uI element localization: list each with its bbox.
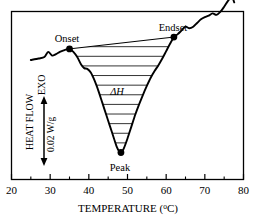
x-tick-label: 80 — [238, 184, 250, 196]
peak-marker-dot — [118, 149, 125, 156]
y-scale-bar-label: 0.02 W/g — [46, 117, 56, 152]
x-tick-label: 50 — [122, 184, 134, 196]
enthalpy-label: ΔH — [109, 86, 125, 97]
endset-marker-dot — [171, 34, 178, 41]
chart-canvas: 20304050607080 Onset Endset Peak ΔH TEMP… — [0, 0, 254, 219]
onset-marker-dot — [66, 46, 73, 53]
x-axis-title-tail: C) — [167, 202, 178, 215]
x-tick-label: 70 — [199, 184, 211, 196]
x-tick-label: 60 — [161, 184, 173, 196]
dsc-thermogram-figure: 20304050607080 Onset Endset Peak ΔH TEMP… — [0, 0, 254, 219]
endset-label: Endset — [159, 22, 188, 33]
onset-label: Onset — [55, 33, 80, 44]
peak-label: Peak — [110, 162, 131, 173]
exo-direction-label: EXO — [36, 74, 47, 95]
x-tick-label: 30 — [45, 184, 57, 196]
x-axis-title-main: TEMPERATURE ( — [78, 202, 164, 215]
x-tick-label: 20 — [6, 184, 18, 196]
x-tick-label: 40 — [83, 184, 95, 196]
y-axis-title: HEAT FLOW — [24, 93, 35, 150]
